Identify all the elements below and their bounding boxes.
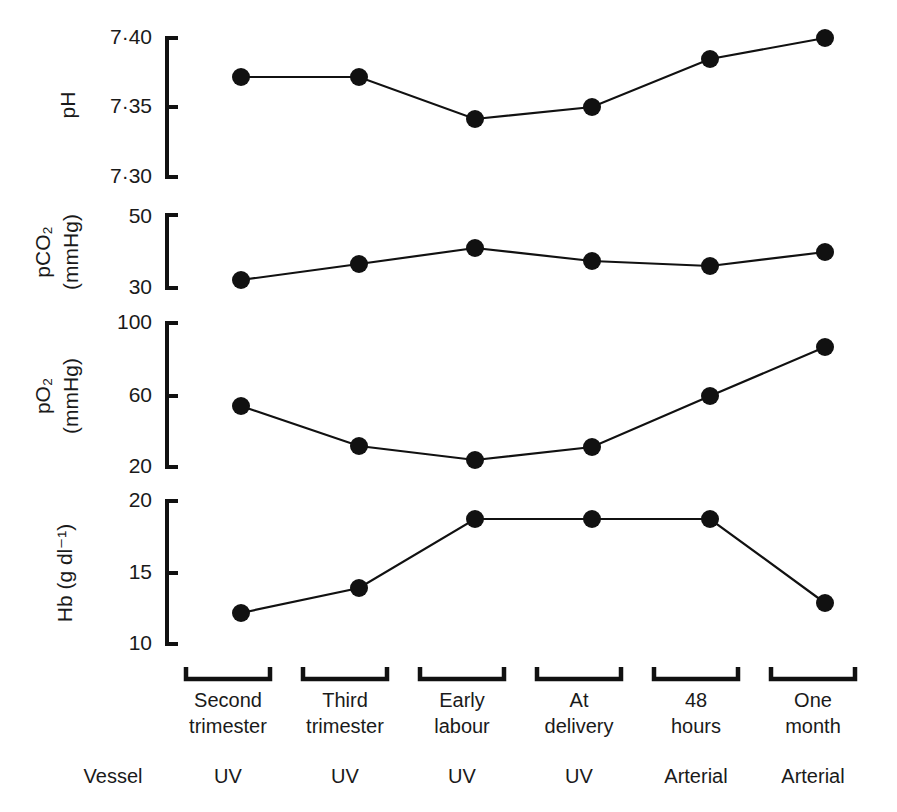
tick-label-po2-20: 20 xyxy=(129,454,152,477)
data-point-po2-4 xyxy=(701,387,719,405)
x-label-2-line2: labour xyxy=(434,715,490,737)
axis-title-po2-line2: (mmHg) xyxy=(59,358,82,434)
series-markers-pco2 xyxy=(232,239,834,289)
x-label-5-line2: month xyxy=(785,715,841,737)
axis-title-pco2-line2: (mmHg) xyxy=(59,214,82,290)
tick-label-hb-20: 20 xyxy=(129,488,152,511)
series-line-pco2 xyxy=(241,248,825,280)
data-point-hb-0 xyxy=(232,604,250,622)
data-point-pco2-2 xyxy=(466,239,484,257)
data-point-pco2-5 xyxy=(816,243,834,261)
x-label-3-line1: At xyxy=(570,689,589,711)
panel-pco2: pCO₂ (mmHg) 50 30 xyxy=(31,204,834,298)
data-point-hb-1 xyxy=(350,579,368,597)
axis-title-hb: Hb (g dl⁻¹) xyxy=(53,524,76,623)
axis-bracket-pco2 xyxy=(167,215,178,288)
x-bracket-1 xyxy=(303,667,387,679)
series-line-po2 xyxy=(241,347,825,460)
data-point-ph-5 xyxy=(816,29,834,47)
x-bracket-5 xyxy=(771,667,855,679)
data-point-hb-4 xyxy=(701,510,719,528)
tick-label-hb-15: 15 xyxy=(129,560,152,583)
tick-label-hb-10: 10 xyxy=(129,631,152,654)
data-point-ph-0 xyxy=(232,68,250,86)
axis-title-po2-line1: pO₂ xyxy=(31,378,54,414)
x-axis-labels: Second trimester Third trimester Early l… xyxy=(189,689,841,737)
x-label-0-line2: trimester xyxy=(189,715,267,737)
x-label-3-line2: delivery xyxy=(545,715,614,737)
data-point-po2-0 xyxy=(232,397,250,415)
x-label-1-line2: trimester xyxy=(306,715,384,737)
vessel-value-3: UV xyxy=(565,765,593,787)
data-point-pco2-1 xyxy=(350,255,368,273)
series-line-hb xyxy=(241,519,825,613)
tick-label-ph-730: 7·30 xyxy=(110,164,152,187)
data-point-po2-3 xyxy=(583,438,601,456)
vessel-value-1: UV xyxy=(331,765,359,787)
x-bracket-4 xyxy=(654,667,738,679)
tick-label-ph-735: 7·35 xyxy=(110,94,152,117)
x-label-4-line2: hours xyxy=(671,715,721,737)
vessel-row: Vessel UV UV UV UV Arterial Arterial xyxy=(84,765,845,787)
data-point-ph-4 xyxy=(701,50,719,68)
vessel-row-label: Vessel xyxy=(84,765,143,787)
vessel-value-4: Arterial xyxy=(664,765,727,787)
data-point-hb-2 xyxy=(466,510,484,528)
x-bracket-0 xyxy=(186,667,270,679)
axis-title-pco2-line1: pCO₂ xyxy=(31,226,54,277)
vessel-value-5: Arterial xyxy=(781,765,844,787)
chart-svg: pH 7·40 7·35 7·30 pCO₂ (mmHg) 50 30 xyxy=(0,0,897,812)
x-bracket-2 xyxy=(420,667,504,679)
tick-label-po2-100: 100 xyxy=(117,310,152,333)
tick-label-ph-740: 7·40 xyxy=(110,25,152,48)
x-label-2-line1: Early xyxy=(439,689,485,711)
data-point-pco2-3 xyxy=(583,252,601,270)
tick-label-pco2-50: 50 xyxy=(129,204,152,227)
vessel-value-0: UV xyxy=(214,765,242,787)
data-point-po2-1 xyxy=(350,437,368,455)
data-point-po2-2 xyxy=(466,451,484,469)
x-axis-brackets xyxy=(186,667,855,679)
data-point-pco2-4 xyxy=(701,257,719,275)
panel-hb: Hb (g dl⁻¹) 20 15 10 xyxy=(53,488,834,654)
x-label-5-line1: One xyxy=(794,689,832,711)
panel-ph: pH 7·40 7·35 7·30 xyxy=(56,25,834,187)
chart-figure: pH 7·40 7·35 7·30 pCO₂ (mmHg) 50 30 xyxy=(0,0,897,812)
data-point-ph-2 xyxy=(466,110,484,128)
tick-label-pco2-30: 30 xyxy=(129,275,152,298)
series-line-ph xyxy=(241,38,825,119)
x-label-1-line1: Third xyxy=(322,689,368,711)
data-point-po2-5 xyxy=(816,338,834,356)
vessel-value-2: UV xyxy=(448,765,476,787)
data-point-hb-3 xyxy=(583,510,601,528)
series-markers-hb xyxy=(232,510,834,622)
axis-title-ph: pH xyxy=(56,92,79,119)
x-label-0-line1: Second xyxy=(194,689,262,711)
data-point-ph-3 xyxy=(583,98,601,116)
data-point-hb-5 xyxy=(816,594,834,612)
x-label-4-line1: 48 xyxy=(685,689,707,711)
x-bracket-3 xyxy=(537,667,621,679)
panel-po2: pO₂ (mmHg) 100 60 20 xyxy=(31,310,834,477)
series-markers-po2 xyxy=(232,338,834,469)
data-point-pco2-0 xyxy=(232,271,250,289)
data-point-ph-1 xyxy=(350,68,368,86)
tick-label-po2-60: 60 xyxy=(129,383,152,406)
